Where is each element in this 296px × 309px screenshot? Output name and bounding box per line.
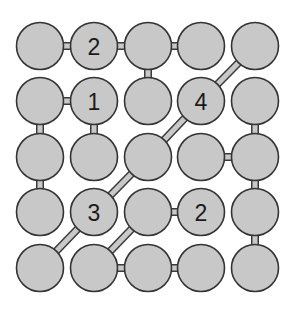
circle-shape	[232, 245, 279, 292]
grid-circle-r1-c0[interactable]	[17, 78, 64, 125]
circle-shape	[71, 134, 118, 181]
grid-circle-r4-c2[interactable]	[125, 245, 172, 292]
grid-circle-r2-c1[interactable]	[71, 134, 118, 181]
grid-circle-r4-c3[interactable]	[178, 245, 225, 292]
circle-shape	[125, 245, 172, 292]
puzzle-board: 21432	[0, 0, 296, 309]
grid-circle-r0-c4[interactable]	[232, 23, 279, 70]
circle-shape	[178, 245, 225, 292]
circle-shape	[17, 23, 64, 70]
circle-shape	[125, 78, 172, 125]
grid-circle-r4-c1[interactable]	[71, 245, 118, 292]
circle-shape	[125, 23, 172, 70]
grid-circle-r3-c2[interactable]	[125, 189, 172, 236]
circle-number: 4	[195, 89, 208, 115]
circle-shape	[17, 245, 64, 292]
circle-shape	[125, 189, 172, 236]
grid-circle-r1-c3[interactable]: 4	[178, 78, 225, 125]
grid-circle-r0-c1[interactable]: 2	[71, 23, 118, 70]
circle-shape	[125, 134, 172, 181]
circle-shape	[178, 23, 225, 70]
grid-circle-r2-c2[interactable]	[125, 134, 172, 181]
grid-circle-r1-c4[interactable]	[232, 78, 279, 125]
circle-shape	[178, 134, 225, 181]
circle-shape	[71, 245, 118, 292]
circle-shape	[17, 189, 64, 236]
grid-circle-r2-c3[interactable]	[178, 134, 225, 181]
grid-circle-r3-c3[interactable]: 2	[178, 189, 225, 236]
circle-number: 3	[88, 200, 101, 226]
circle-number: 2	[195, 200, 208, 226]
circle-shape	[17, 78, 64, 125]
grid-circle-r1-c2[interactable]	[125, 78, 172, 125]
grid-circle-r1-c1[interactable]: 1	[71, 78, 118, 125]
circle-shape	[232, 189, 279, 236]
circle-shape	[232, 78, 279, 125]
grid-circle-r2-c4[interactable]	[232, 134, 279, 181]
grid-circle-r0-c3[interactable]	[178, 23, 225, 70]
grid-circle-r4-c4[interactable]	[232, 245, 279, 292]
grid-circle-r3-c0[interactable]	[17, 189, 64, 236]
circle-number: 2	[88, 34, 101, 60]
grid-circle-r2-c0[interactable]	[17, 134, 64, 181]
circle-number: 1	[88, 89, 101, 115]
circle-shape	[17, 134, 64, 181]
circle-shape	[232, 23, 279, 70]
nodes-layer: 21432	[17, 23, 279, 292]
grid-circle-r3-c4[interactable]	[232, 189, 279, 236]
grid-circle-r0-c0[interactable]	[17, 23, 64, 70]
grid-circle-r0-c2[interactable]	[125, 23, 172, 70]
grid-circle-r3-c1[interactable]: 3	[71, 189, 118, 236]
circle-shape	[232, 134, 279, 181]
grid-circle-r4-c0[interactable]	[17, 245, 64, 292]
